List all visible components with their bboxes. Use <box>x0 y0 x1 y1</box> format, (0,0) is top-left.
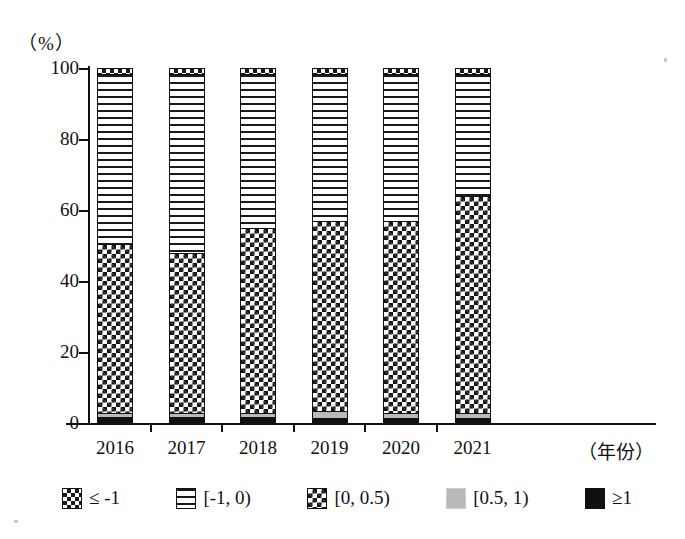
scan-artifact <box>664 58 667 62</box>
y-tick-mark <box>79 423 88 425</box>
segment-0-to-0p5 <box>170 253 204 414</box>
y-tick-label: 0 <box>70 412 80 434</box>
segment-ge-1 <box>170 417 204 422</box>
x-label-2020: 2020 <box>366 437 436 459</box>
legend-label: [0, 0.5) <box>334 487 389 509</box>
chart-legend: ≤ -1[-1, 0)[0, 0.5)[0.5, 1)≥1 <box>62 487 632 509</box>
legend-item-1[interactable]: [-1, 0) <box>176 487 250 509</box>
y-axis-unit-label: （%） <box>18 28 75 55</box>
y-tick-mark <box>79 281 88 283</box>
x-axis-title: （年份） <box>578 437 654 464</box>
x-tick-mark <box>221 423 223 432</box>
legend-label: ≤ -1 <box>89 487 120 509</box>
segment-0-to-0p5 <box>98 244 132 413</box>
legend-item-4[interactable]: ≥1 <box>585 487 632 509</box>
x-label-2017: 2017 <box>152 437 222 459</box>
y-tick-label: 80 <box>60 128 79 150</box>
y-tick-label: 60 <box>60 199 79 221</box>
x-label-2016: 2016 <box>80 437 150 459</box>
segment-minus1-to-0 <box>170 74 204 252</box>
legend-label: [-1, 0) <box>203 487 250 509</box>
y-tick-mark <box>79 68 88 70</box>
legend-item-3[interactable]: [0.5, 1) <box>446 487 528 509</box>
segment-minus1-to-0 <box>241 74 275 228</box>
segment-minus1-to-0 <box>456 74 490 196</box>
x-label-2018: 2018 <box>223 437 293 459</box>
segment-minus1-to-0 <box>98 74 132 243</box>
bar-2019[interactable] <box>312 68 348 423</box>
bar-2021[interactable] <box>455 68 491 423</box>
x-tick-mark <box>293 423 295 432</box>
legend-item-2[interactable]: [0, 0.5) <box>307 487 389 509</box>
y-tick-label: 20 <box>60 341 79 363</box>
legend-swatch-icon <box>62 488 82 509</box>
legend-label: [0.5, 1) <box>473 487 528 509</box>
x-axis-line <box>66 423 656 425</box>
segment-minus1-to-0 <box>313 74 347 220</box>
y-tick-label: 40 <box>60 270 79 292</box>
bar-2017[interactable] <box>169 68 205 423</box>
y-tick-mark <box>79 210 88 212</box>
x-label-2021: 2021 <box>438 437 508 459</box>
stacked-bar-chart-figure: （%） 020406080100 （年份） ≤ -1[-1, 0)[0, 0.5… <box>0 0 685 539</box>
y-tick-mark <box>79 139 88 141</box>
legend-item-0[interactable]: ≤ -1 <box>62 487 120 509</box>
x-label-2019: 2019 <box>295 437 365 459</box>
legend-swatch-icon <box>446 488 466 509</box>
plot-area: 020406080100 <box>88 68 633 423</box>
legend-swatch-icon <box>307 488 327 509</box>
segment-0-to-0p5 <box>241 228 275 413</box>
y-tick-mark <box>79 352 88 354</box>
bar-2016[interactable] <box>97 68 133 423</box>
segment-0-to-0p5 <box>313 221 347 412</box>
segment-ge-1 <box>456 418 490 422</box>
bar-2018[interactable] <box>240 68 276 423</box>
segment-ge-1 <box>384 418 418 422</box>
segment-minus1-to-0 <box>384 74 418 220</box>
legend-label: ≥1 <box>612 487 632 509</box>
segment-0-to-0p5 <box>456 196 490 413</box>
x-tick-mark <box>436 423 438 432</box>
y-tick-label: 100 <box>51 57 80 79</box>
scan-artifact <box>14 520 18 523</box>
segment-0-to-0p5 <box>384 221 418 413</box>
legend-swatch-icon <box>585 488 605 509</box>
segment-ge-1 <box>98 417 132 422</box>
x-tick-mark <box>364 423 366 432</box>
segment-ge-1 <box>241 417 275 422</box>
segment-ge-1 <box>313 418 347 422</box>
bar-2020[interactable] <box>383 68 419 423</box>
x-tick-mark <box>150 423 152 432</box>
legend-swatch-icon <box>176 488 196 509</box>
